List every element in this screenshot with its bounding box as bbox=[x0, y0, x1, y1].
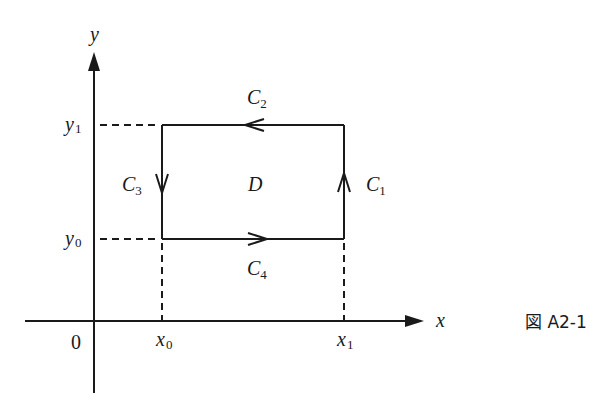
c3-label: C3 bbox=[122, 173, 142, 198]
guide-lines bbox=[100, 125, 344, 320]
x0-label: x0 bbox=[155, 328, 172, 352]
c2-label: C2 bbox=[247, 86, 267, 111]
c4-label: C4 bbox=[247, 257, 267, 282]
y-axis-label: y bbox=[88, 23, 99, 46]
x-axis-label: x bbox=[435, 309, 445, 331]
y-axis-arrowhead-icon bbox=[88, 52, 100, 71]
x1-label: x1 bbox=[336, 328, 353, 352]
green-theorem-diagram: y x 0 y1 y0 x0 x1 C2 C1 C3 C4 D 図 A2-1 bbox=[0, 0, 612, 409]
y0-label: y0 bbox=[63, 227, 81, 250]
c1-label: C1 bbox=[366, 173, 386, 198]
y1-label: y1 bbox=[63, 113, 81, 136]
figure-caption: 図 A2-1 bbox=[525, 312, 587, 332]
origin-label: 0 bbox=[71, 331, 81, 353]
axes bbox=[25, 52, 424, 393]
region-label: D bbox=[247, 173, 263, 195]
x-axis-arrowhead-icon bbox=[405, 315, 424, 327]
